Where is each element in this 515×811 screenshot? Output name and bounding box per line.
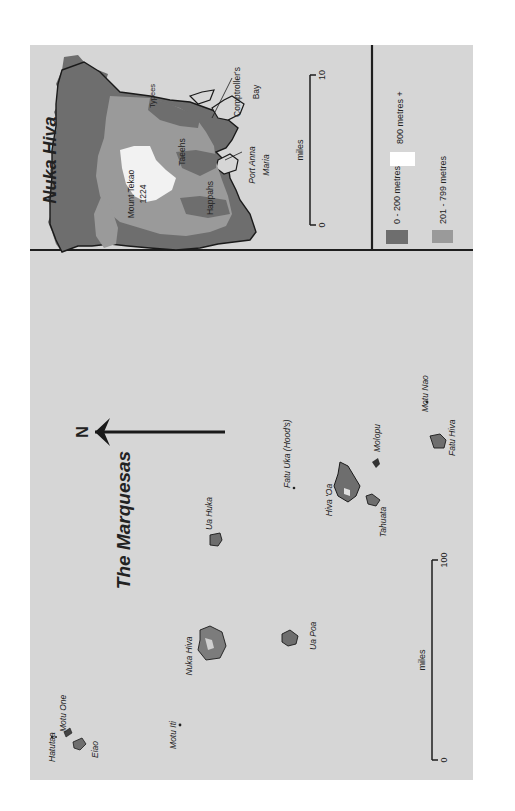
overview-title: The Marquesas [113,451,134,589]
label-comptrollers-bay-2: Bay [251,84,261,99]
label-nuka-hiva: Nuka Hiva [184,636,194,675]
label-motu-iti: Motu Iti [168,720,178,749]
label-hatutaa: Hatutaa [47,732,57,762]
label-mount-height: 1224 [138,184,148,203]
legend-swatch-high [390,152,415,166]
overview-scale-start: 0 [439,757,449,762]
label-molopu: Molopu [372,424,382,452]
label-fatu-hiva: Fatu Hiva [447,419,457,456]
overview-scale-unit: miles [417,649,427,671]
label-mount-tekao: Mount Tekao [126,169,136,218]
overview-scale-end: 100 [439,552,449,567]
label-eiao: Eiao [90,741,100,758]
label-typees: Typees [148,84,157,108]
label-motu-nao: Motu Nao [420,375,430,412]
legend-label-low: 0 - 200 metres [392,165,402,224]
inset-scale-unit: miles [295,139,305,161]
label-port-anna-maria-1: Port Anna [247,146,257,184]
label-motu-one: Motu One [58,694,68,732]
label-ua-poa: Ua Poa [308,621,318,650]
label-taeehs: Taeehs [177,138,187,165]
legend-label-mid: 201 - 799 metres [438,155,448,224]
island-motu-iti [179,724,182,727]
north-label: N [74,426,91,438]
label-port-anna-maria-2: Maria [261,154,271,176]
inset-scale-start: 0 [317,222,327,227]
label-ua-huka: Ua Huka [204,497,214,530]
inset-scale-end: 10 [317,70,327,80]
inset-title: Nuka Hiva [40,116,60,203]
label-hiva-oa: Hiva 'Oa [324,484,334,517]
label-tahuata: Tahuata [378,507,388,538]
legend-swatch-mid [432,230,453,243]
island-fatu-uka [293,487,296,490]
label-fatu-uka: Fatu Uka (Hood's) [282,419,292,488]
label-comptrollers-bay-1: Comptroller's [232,67,242,117]
label-happahs: Happahs [205,181,215,215]
legend-label-high: 800 metres + [395,91,405,144]
legend-swatch-low [386,230,408,244]
marquesas-map: Nuka Hiva Mount Tekao 1224 Typees Taeehs… [0,0,515,811]
